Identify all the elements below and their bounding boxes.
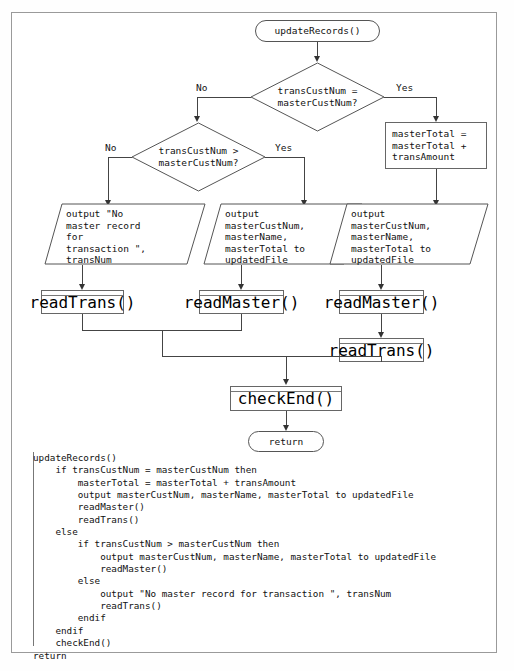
connector-d2-no-horizontal — [108, 157, 132, 158]
decision-1-line2: masterCustNum? — [277, 97, 357, 109]
connector-process-to-io-right — [436, 169, 437, 201]
terminator-return: return — [248, 431, 324, 452]
io-right-text: output masterCustNum, masterName, master… — [351, 208, 431, 266]
module-readtrans-left: readTrans() — [41, 290, 124, 314]
decision-1-no-label: No — [196, 82, 207, 93]
connector-readmaster-mid-down — [241, 314, 242, 331]
connector-checkend-to-return — [286, 411, 287, 426]
io-output-no-master-record: output "No master record for transaction… — [44, 203, 206, 265]
connector-d1-no-horizontal — [197, 97, 251, 98]
process-mastertotal-accumulate: masterTotal = masterTotal + transAmount — [385, 122, 487, 169]
io-left-text: output "No master record for transaction… — [66, 208, 146, 266]
module-readtrans-left-label: readTrans() — [30, 293, 136, 312]
terminator-start: updateRecords() — [255, 20, 380, 42]
connector-upper-junction-down — [162, 330, 163, 357]
process-mastertotal-text: masterTotal = masterTotal + transAmount — [392, 128, 466, 163]
connector-d2-yes-vertical — [304, 157, 305, 201]
connector-d1-yes-vertical — [436, 97, 437, 117]
decision-2-line2: masterCustNum? — [158, 157, 238, 169]
connector-d2-yes-horizontal — [265, 157, 305, 158]
module-readmaster-mid: readMaster() — [199, 290, 284, 314]
io-mid-text: output masterCustNum, masterName, master… — [225, 208, 305, 266]
module-checkend: checkEnd() — [230, 386, 342, 411]
connector-right-column-to-merge — [381, 356, 382, 362]
connector-io-mid-to-readmaster — [241, 265, 242, 285]
connector-io-left-to-readtrans — [82, 265, 83, 285]
connector-io-right-to-readmaster — [381, 265, 382, 285]
connector-d1-no-vertical — [197, 97, 198, 117]
module-readmaster-mid-label: readMaster() — [184, 293, 300, 312]
terminator-start-label: updateRecords() — [275, 25, 361, 37]
connector-readtrans-left-down — [82, 314, 83, 331]
connector-start-to-d1 — [317, 42, 318, 57]
decision-2-no-label: No — [105, 142, 116, 153]
decision-1-yes-label: Yes — [396, 82, 413, 93]
decision-1-label-overlay: transCustNum = masterCustNum? — [250, 62, 385, 132]
decision-2-yes-label: Yes — [275, 142, 292, 153]
connector-merge-lower-horizontal — [162, 356, 382, 357]
pseudocode-block: updateRecords() if transCustNum = master… — [33, 452, 483, 662]
decision-2-label: transCustNum > masterCustNum? — [131, 122, 266, 192]
decision-2-line1: transCustNum > — [158, 145, 238, 157]
module-readmaster-right-label: readMaster() — [324, 293, 440, 312]
module-readmaster-right: readMaster() — [339, 290, 424, 314]
diagram-page: updateRecords() transCustNum = masterCus… — [0, 0, 514, 671]
connector-d2-no-vertical — [108, 157, 109, 201]
io-output-master-right: output masterCustNum, masterName, master… — [329, 203, 489, 265]
connector-readmaster-to-readtrans-right — [381, 314, 382, 333]
decision-1-line1: transCustNum = — [277, 85, 357, 97]
arrowhead-merge-to-checkend — [283, 379, 289, 385]
connector-merge-to-checkend — [286, 356, 287, 380]
module-checkend-label: checkEnd() — [238, 389, 334, 408]
terminator-return-label: return — [269, 436, 303, 448]
connector-d1-yes-horizontal — [384, 97, 437, 98]
